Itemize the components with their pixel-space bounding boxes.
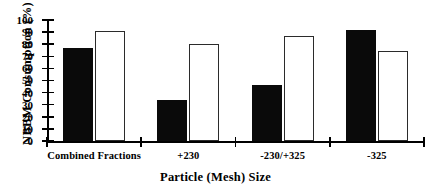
y-tick-100: 100 xyxy=(42,19,54,21)
chart-figure: NBBM Consumption (%) 0102030405060708090… xyxy=(0,0,431,191)
x-axis-title: Particle (Mesh) Size xyxy=(0,170,431,185)
y-tick-50: 50 xyxy=(42,80,54,82)
bar-solid-2 xyxy=(252,85,282,141)
y-tick-label-100: 100 xyxy=(17,15,34,26)
y-tick-label-90: 90 xyxy=(22,27,33,38)
y-tick-label-70: 70 xyxy=(22,51,33,62)
category-label-2: -230/+325 xyxy=(260,150,305,161)
y-tick-label-0: 0 xyxy=(28,135,34,146)
x-tick-3 xyxy=(329,137,331,147)
y-tick-40: 40 xyxy=(42,92,54,94)
y-tick-30: 30 xyxy=(42,104,54,106)
bar-hollow-3 xyxy=(378,51,408,141)
y-tick-label-60: 60 xyxy=(22,63,33,74)
category-label-3: -325 xyxy=(367,150,387,161)
x-tick-2 xyxy=(235,137,237,147)
bar-solid-3 xyxy=(346,30,376,141)
plot-area: 0102030405060708090100 Combined Fraction… xyxy=(47,20,424,141)
x-tick-4 xyxy=(423,137,425,147)
bar-solid-1 xyxy=(157,100,187,141)
x-tick-1 xyxy=(140,137,142,147)
y-tick-10: 10 xyxy=(42,128,54,130)
bar-solid-0 xyxy=(63,48,93,141)
y-tick-label-50: 50 xyxy=(22,75,33,86)
y-tick-label-30: 30 xyxy=(22,99,33,110)
y-tick-60: 60 xyxy=(42,68,54,70)
bar-hollow-0 xyxy=(95,31,125,141)
x-tick-0 xyxy=(46,137,48,147)
bar-hollow-2 xyxy=(284,36,314,141)
y-tick-80: 80 xyxy=(42,43,54,45)
y-tick-label-40: 40 xyxy=(22,87,33,98)
y-tick-0: 0 xyxy=(42,140,54,142)
y-tick-label-10: 10 xyxy=(22,123,33,134)
bar-hollow-1 xyxy=(189,44,219,141)
y-tick-20: 20 xyxy=(42,116,54,118)
category-label-1: +230 xyxy=(177,150,199,161)
category-label-0: Combined Fractions xyxy=(47,150,141,161)
y-tick-label-80: 80 xyxy=(22,39,33,50)
y-tick-label-20: 20 xyxy=(22,111,33,122)
y-tick-70: 70 xyxy=(42,56,54,58)
y-tick-90: 90 xyxy=(42,31,54,33)
